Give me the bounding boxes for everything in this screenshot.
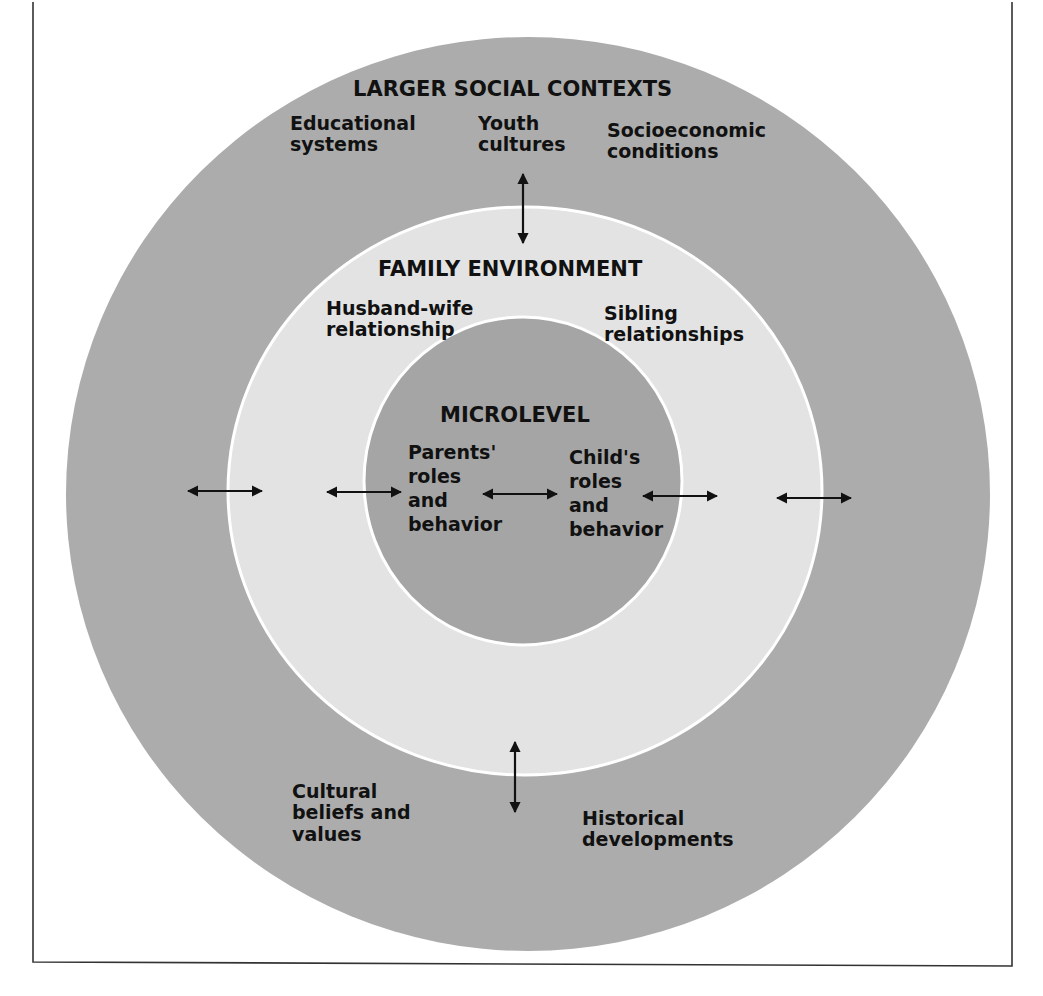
cultural-beliefs-label: Cultural beliefs and values (292, 781, 411, 845)
historical-developments-label: Historical developments (582, 808, 734, 851)
family-environment-title: FAMILY ENVIRONMENT (378, 258, 642, 282)
educational-systems-label: Educational systems (290, 113, 416, 156)
youth-cultures-label: Youth cultures (478, 113, 565, 156)
microlevel-title: MICROLEVEL (440, 404, 590, 428)
husband-wife-relationship-label: Husband-wife relationship (326, 298, 473, 341)
larger-social-contexts-title: LARGER SOCIAL CONTEXTS (353, 78, 672, 102)
childs-roles-behavior-label: Child's roles and behavior (569, 445, 663, 542)
socioeconomic-conditions-label: Socioeconomic conditions (607, 120, 766, 163)
parents-roles-behavior-label: Parents' roles and behavior (408, 440, 502, 537)
sibling-relationships-label: Sibling relationships (604, 303, 744, 346)
